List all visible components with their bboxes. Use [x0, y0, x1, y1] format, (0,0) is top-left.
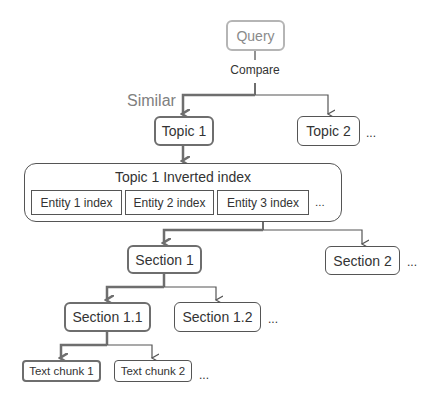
edge-to-section1 [164, 230, 263, 243]
compare-label: Compare [224, 63, 286, 77]
text-chunk-1-node: Text chunk 1 [22, 360, 101, 382]
query-node: Query [226, 20, 285, 51]
section-1-1-node: Section 1.1 [64, 302, 151, 332]
topics-more: ... [366, 126, 376, 140]
edge-to-topic1 [183, 95, 255, 114]
section-1-2-node: Section 1.2 [174, 302, 261, 332]
section-1-node: Section 1 [127, 245, 202, 274]
entity-3-index: Entity 3 index [217, 190, 309, 215]
chunks-more: ... [199, 368, 209, 382]
subsections-more: ... [268, 312, 278, 326]
entity-1-index: Entity 1 index [31, 190, 122, 215]
edge-to-section2 [263, 230, 362, 244]
edge-to-section11 [107, 287, 164, 300]
inverted-index-title: Topic 1 Inverted index [25, 169, 341, 185]
entity-2-index: Entity 2 index [125, 190, 214, 215]
section-2-node: Section 2 [325, 246, 400, 275]
entities-more: ... [315, 196, 325, 208]
text-chunk-2-node: Text chunk 2 [114, 360, 192, 382]
edge-to-topic2 [255, 95, 328, 114]
edge-to-chunk2 [107, 345, 152, 358]
edge-to-section12 [164, 287, 216, 300]
similar-label: Similar [127, 92, 176, 110]
topic-2-node: Topic 2 [297, 116, 360, 146]
edge-to-chunk1 [61, 345, 107, 358]
sections-more: ... [407, 255, 417, 269]
topic-1-node: Topic 1 [154, 116, 214, 146]
